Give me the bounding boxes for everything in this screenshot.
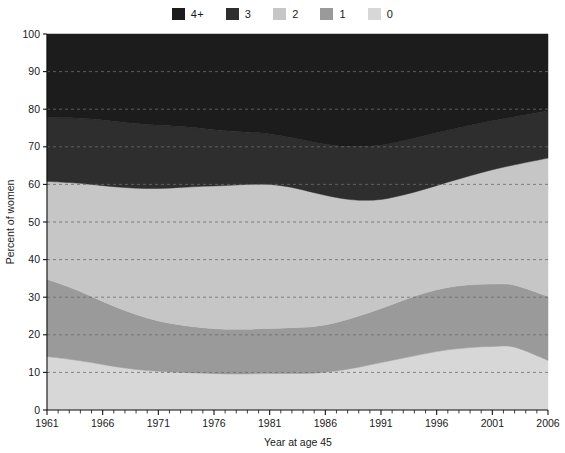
y-tick-label-10: 10: [28, 366, 40, 378]
y-tick-label-100: 100: [22, 28, 40, 40]
x-tick-label-1991: 1991: [369, 417, 393, 429]
plot-area-wrapper: 0102030405060708090100196119661971197619…: [0, 0, 565, 453]
x-tick-label-1996: 1996: [425, 417, 449, 429]
y-tick-label-80: 80: [28, 103, 40, 115]
y-axis-title: Percent of women: [4, 180, 16, 265]
chart-canvas: 0102030405060708090100196119661971197619…: [0, 0, 565, 453]
y-tick-label-30: 30: [28, 291, 40, 303]
y-tick-label-0: 0: [34, 404, 40, 416]
stacked-area-chart: 4+ 3 2 1 0 01020304050607080901001961196…: [0, 0, 565, 453]
x-tick-label-1976: 1976: [202, 417, 226, 429]
y-tick-label-70: 70: [28, 140, 40, 152]
x-tick-label-1971: 1971: [147, 417, 171, 429]
y-tick-label-60: 60: [28, 178, 40, 190]
x-tick-label-1966: 1966: [91, 417, 115, 429]
x-tick-label-1961: 1961: [35, 417, 59, 429]
y-tick-label-50: 50: [28, 216, 40, 228]
x-axis-title: Year at age 45: [264, 436, 332, 448]
y-tick-label-20: 20: [28, 328, 40, 340]
y-tick-label-40: 40: [28, 253, 40, 265]
x-tick-label-1986: 1986: [314, 417, 338, 429]
x-tick-label-2006: 2006: [536, 417, 560, 429]
x-tick-label-1981: 1981: [258, 417, 282, 429]
area-series-layer: [47, 34, 548, 410]
y-tick-label-90: 90: [28, 65, 40, 77]
x-tick-label-2001: 2001: [481, 417, 505, 429]
